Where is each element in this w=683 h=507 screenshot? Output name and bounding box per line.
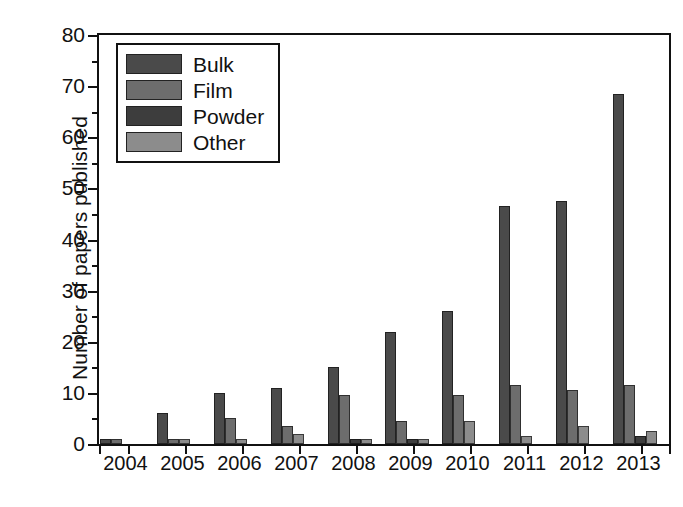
bar-film-2011 [510,385,521,444]
y-tick-50 [88,188,99,190]
x-tick-label-2004: 2004 [103,452,148,475]
y-tick-label: 70 [62,74,85,98]
bar-powder-2013 [635,436,646,444]
bar-other-2009 [418,439,429,444]
bar-group-2013 [613,35,657,444]
bar-powder-2008 [350,439,361,444]
legend-label: Powder [193,106,264,127]
y-tick-label: 50 [62,176,85,200]
x-tick-label-2005: 2005 [160,452,205,475]
y-minor-tick [92,418,99,420]
bar-film-2012 [567,390,578,444]
bar-group-2011 [499,35,543,444]
bar-group-2012 [556,35,600,444]
bar-film-2005 [168,439,179,444]
bar-other-2005 [179,439,190,444]
chart-figure: Number of papers published 0102030405060… [0,0,683,507]
bar-bulk-2011 [499,206,510,444]
x-tick-label-2009: 2009 [388,452,433,475]
y-tick-70 [88,86,99,88]
y-minor-tick [92,367,99,369]
y-tick-40 [88,240,99,242]
y-tick-label: 30 [62,279,85,303]
bar-powder-2009 [407,439,418,444]
x-tick-label-2011: 2011 [503,452,546,475]
legend-swatch-icon [126,80,182,100]
x-tick-label-2008: 2008 [331,452,376,475]
y-tick-label: 60 [62,125,85,149]
legend-item-film[interactable]: Film [126,77,264,103]
bar-other-2012 [578,426,589,444]
bar-film-2013 [624,385,635,444]
chart-legend: BulkFilmPowderOther [116,43,280,163]
bar-film-2009 [396,421,407,444]
bar-other-2008 [361,439,372,444]
bar-group-2009 [385,35,429,444]
y-tick-label: 10 [62,381,85,405]
bar-other-2007 [293,434,304,444]
bar-bulk-2008 [328,367,339,444]
y-minor-tick [92,265,99,267]
x-tick-label-2006: 2006 [217,452,262,475]
legend-swatch-icon [126,106,182,126]
bar-bulk-2009 [385,332,396,444]
y-tick-label: 0 [73,432,85,456]
x-tick-label-2010: 2010 [445,452,490,475]
bar-bulk-2007 [271,388,282,444]
y-tick-10 [88,393,99,395]
x-tick-label-2007: 2007 [274,452,319,475]
y-tick-label: 20 [62,330,85,354]
legend-label: Film [193,80,233,101]
y-minor-tick [92,163,99,165]
y-tick-30 [88,291,99,293]
legend-item-bulk[interactable]: Bulk [126,51,264,77]
bar-bulk-2004 [100,439,111,444]
bar-other-2006 [236,439,247,444]
legend-swatch-icon [126,54,182,74]
y-minor-tick [92,214,99,216]
bar-other-2011 [521,436,532,444]
legend-swatch-icon [126,132,182,152]
y-tick-60 [88,137,99,139]
legend-label: Other [193,132,246,153]
y-tick-label: 40 [62,228,85,252]
bar-film-2008 [339,395,350,444]
bar-group-2008 [328,35,372,444]
y-tick-label: 80 [62,23,85,47]
bar-bulk-2006 [214,393,225,444]
x-tick-end [669,444,671,454]
bar-group-2010 [442,35,486,444]
bar-other-2013 [646,431,657,444]
bar-bulk-2012 [556,201,567,444]
bar-bulk-2013 [613,94,624,444]
bar-film-2006 [225,418,236,444]
y-minor-tick [92,112,99,114]
plot-area: 01020304050607080 BulkFilmPowderOther [97,33,671,446]
y-tick-20 [88,342,99,344]
legend-item-powder[interactable]: Powder [126,103,264,129]
bar-other-2010 [464,421,475,444]
y-tick-80 [88,35,99,37]
x-tick-label-2013: 2013 [616,452,661,475]
x-tick-label-2012: 2012 [559,452,604,475]
bar-film-2007 [282,426,293,444]
legend-label: Bulk [193,54,234,75]
bar-bulk-2010 [442,311,453,444]
y-minor-tick [92,61,99,63]
y-minor-tick [92,316,99,318]
bar-film-2010 [453,395,464,444]
x-tick-start [99,444,101,454]
legend-item-other[interactable]: Other [126,129,264,155]
bar-film-2004 [111,439,122,444]
y-tick-0 [88,444,99,446]
bar-bulk-2005 [157,413,168,444]
